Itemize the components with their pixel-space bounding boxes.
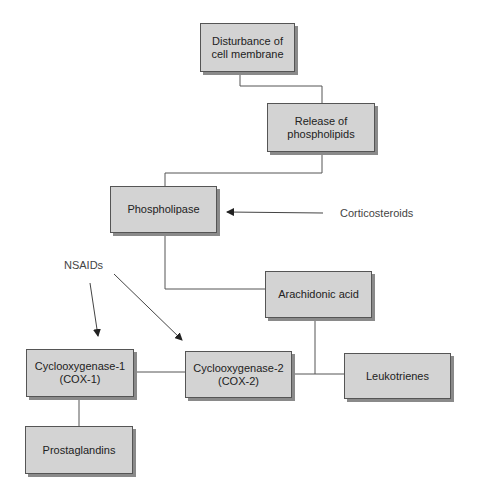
- edge-disturbance-release: [240, 72, 322, 103]
- node-prostaglandins: Prostaglandins: [25, 426, 133, 474]
- node-leukotrienes: Leukotrienes: [344, 353, 451, 399]
- node-cox1: Cyclooxygenase-1 (COX-1): [26, 349, 134, 397]
- node-cox2: Cyclooxygenase-2 (COX-2): [185, 351, 292, 398]
- node-label: Cyclooxygenase-1 (COX-1): [35, 360, 126, 386]
- node-label: Cyclooxygenase-2 (COX-2): [193, 362, 284, 388]
- edge-release-phospholipase: [165, 152, 322, 186]
- node-arachidonic-acid: Arachidonic acid: [265, 271, 372, 318]
- label-nsaids: NSAIDs: [64, 259, 103, 271]
- edge-phospholipase-arachidonic: [165, 233, 265, 289]
- arrow-nsaids-cox2: [114, 274, 182, 340]
- node-label: Release of phospholipids: [287, 115, 354, 141]
- label-corticosteroids: Corticosteroids: [340, 207, 413, 219]
- node-label: Phospholipase: [127, 203, 199, 216]
- node-label: Disturbance of cell membrane: [211, 35, 283, 61]
- node-phospholipase: Phospholipase: [110, 186, 217, 233]
- node-release: Release of phospholipids: [267, 103, 375, 152]
- node-label: Arachidonic acid: [278, 288, 359, 301]
- node-disturbance: Disturbance of cell membrane: [200, 23, 295, 72]
- node-label: Leukotrienes: [366, 370, 429, 383]
- node-label: Prostaglandins: [43, 444, 116, 457]
- connector-lines: [0, 0, 479, 491]
- arrow-corticosteroids: [227, 212, 323, 213]
- arrow-nsaids-cox1: [90, 283, 98, 336]
